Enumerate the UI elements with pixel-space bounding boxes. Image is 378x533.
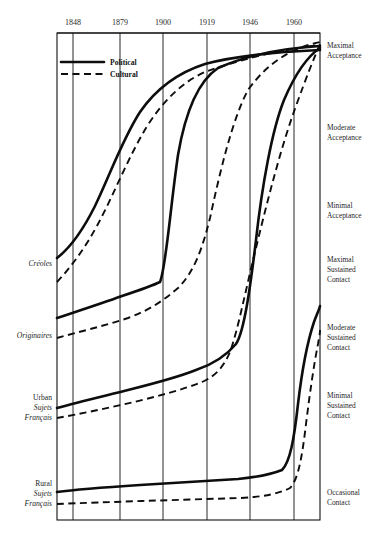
scale-label-maximal-acceptance-line2: Acceptance bbox=[327, 51, 362, 60]
group-label-rural-line1: Rural bbox=[35, 479, 52, 488]
group-label-originaires: Originaires bbox=[17, 331, 52, 340]
scale-label-minimal-sustained-line2: Sustained bbox=[327, 401, 356, 410]
series-creoles-cultural bbox=[57, 45, 320, 282]
group-label-rural-line3: Français bbox=[24, 499, 52, 508]
scale-label-minimal-acceptance-line1: Minimal bbox=[327, 201, 352, 210]
scale-label-occasional-contact-line2: Contact bbox=[327, 498, 351, 507]
series-originaires-cultural bbox=[57, 42, 320, 338]
series-rural-sujets-francais-cultural bbox=[57, 330, 320, 504]
group-label-urban-line3: Français bbox=[24, 413, 52, 422]
scale-label-maximal-sustained-line3: Contact bbox=[327, 275, 351, 284]
group-label-urban-line1: Urban bbox=[33, 393, 52, 402]
group-label-rural-line2: Sujets bbox=[34, 489, 52, 498]
gridlines bbox=[73, 33, 294, 520]
x-tick-label: 1919 bbox=[199, 18, 215, 27]
scale-label-minimal-sustained-line3: Contact bbox=[327, 411, 351, 420]
scale-label-moderate-sustained-line1: Moderate bbox=[327, 323, 356, 332]
series-group bbox=[57, 42, 320, 504]
right-scale-labels: Maximal Acceptance Moderate Acceptance M… bbox=[327, 41, 362, 507]
chart-container: 1848 1879 1900 1919 1946 1960 Political … bbox=[0, 0, 378, 533]
group-label-urban-line2: Sujets bbox=[34, 403, 52, 412]
scale-label-moderate-acceptance-line1: Moderate bbox=[327, 123, 356, 132]
legend: Political Cultural bbox=[61, 58, 138, 79]
x-tick-label: 1960 bbox=[286, 18, 302, 27]
scale-label-occasional-contact-line1: Occasional bbox=[327, 488, 360, 497]
scale-label-moderate-sustained-line3: Contact bbox=[327, 343, 351, 352]
series-urban-sujets-francais-cultural bbox=[57, 44, 320, 418]
left-group-labels: Créoles Originaires Urban Sujets Françai… bbox=[17, 259, 52, 508]
scale-label-maximal-sustained-line2: Sustained bbox=[327, 265, 356, 274]
scale-label-minimal-acceptance-line2: Acceptance bbox=[327, 211, 362, 220]
scale-label-maximal-sustained-line1: Maximal bbox=[327, 255, 354, 264]
legend-label-political: Political bbox=[110, 58, 137, 67]
x-tick-label: 1879 bbox=[112, 18, 128, 27]
x-tick-label: 1900 bbox=[155, 18, 171, 27]
x-axis-tick-labels: 1848 1879 1900 1919 1946 1960 bbox=[65, 18, 302, 27]
scale-label-minimal-sustained-line1: Minimal bbox=[327, 391, 352, 400]
historical-line-chart: 1848 1879 1900 1919 1946 1960 Political … bbox=[0, 0, 378, 533]
legend-label-cultural: Cultural bbox=[110, 70, 138, 79]
group-label-creoles: Créoles bbox=[28, 259, 52, 268]
series-originaires-political bbox=[57, 46, 320, 318]
scale-label-moderate-acceptance-line2: Acceptance bbox=[327, 133, 362, 142]
x-tick-label: 1848 bbox=[65, 18, 81, 27]
scale-label-moderate-sustained-line2: Sustained bbox=[327, 333, 356, 342]
x-tick-label: 1946 bbox=[242, 18, 258, 27]
series-urban-sujets-francais-political bbox=[57, 48, 320, 408]
scale-label-maximal-acceptance-line1: Maximal bbox=[327, 41, 354, 50]
